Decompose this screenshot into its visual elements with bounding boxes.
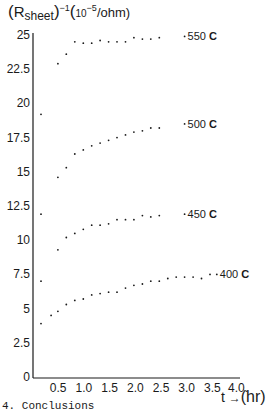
- x-tick-label: 3.5: [204, 381, 221, 395]
- data-point: [201, 278, 203, 280]
- data-point: [184, 123, 186, 125]
- data-point: [116, 291, 118, 293]
- data-point: [158, 37, 160, 39]
- data-point: [91, 224, 93, 226]
- y-tick-label: 17.5: [7, 131, 31, 145]
- data-point: [142, 283, 144, 285]
- data-point: [142, 215, 144, 217]
- data-point: [99, 293, 101, 295]
- data-point: [65, 53, 67, 55]
- data-point: [192, 276, 194, 278]
- x-tick-label: 1.0: [76, 381, 93, 395]
- y-tick-label: 0: [23, 370, 30, 384]
- data-point: [65, 167, 67, 169]
- data-point: [184, 213, 186, 215]
- data-point: [91, 294, 93, 296]
- y-tick-label: 5: [23, 302, 30, 316]
- x-axis-t: t: [221, 389, 225, 405]
- x-tick-label: 2.5: [153, 381, 170, 395]
- data-point: [175, 276, 177, 278]
- x-tick-label: 1.5: [101, 381, 118, 395]
- data-point: [82, 298, 84, 300]
- data-point: [82, 228, 84, 230]
- data-point: [40, 113, 42, 115]
- series-label: 500 C: [188, 118, 217, 130]
- series-labels: 400 C450 C500 C550 C: [188, 30, 250, 280]
- scatter-plot: 02.557.51012.51517.52022.525 0.51.01.52.…: [0, 0, 269, 416]
- data-point: [133, 219, 135, 221]
- x-tick-label: 3.0: [178, 381, 195, 395]
- x-tick-label: 2.0: [127, 381, 144, 395]
- data-point: [184, 276, 186, 278]
- data-point: [57, 176, 59, 178]
- data-point: [65, 304, 67, 306]
- data-point: [116, 219, 118, 221]
- data-point: [125, 134, 127, 136]
- data-point: [125, 287, 127, 289]
- data-point: [91, 145, 93, 147]
- y-tick-label: 15: [17, 165, 31, 179]
- data-point: [57, 310, 59, 312]
- data-point: [82, 149, 84, 151]
- data-point: [99, 224, 101, 226]
- data-points: [40, 36, 218, 325]
- data-point: [216, 274, 218, 276]
- series-label: 550 C: [188, 30, 217, 42]
- data-point: [108, 291, 110, 293]
- data-point: [125, 219, 127, 221]
- y-tick-label: 25: [17, 28, 31, 42]
- data-point: [74, 41, 76, 43]
- data-point: [108, 41, 110, 43]
- x-axis-title: t →(hr): [221, 388, 266, 406]
- y-tick-label: 2.5: [13, 336, 30, 350]
- x-tick-label: 0.5: [50, 381, 67, 395]
- data-point: [74, 300, 76, 302]
- data-point: [99, 142, 101, 144]
- data-point: [209, 274, 211, 276]
- data-point: [108, 223, 110, 225]
- series-label: 400 C: [220, 268, 249, 280]
- data-point: [133, 284, 135, 286]
- data-point: [116, 137, 118, 139]
- x-tick-labels: 0.51.01.52.02.53.03.54.0.: [50, 381, 248, 395]
- data-point: [150, 127, 152, 129]
- y-tick-labels: 02.557.51012.51517.52022.525: [7, 28, 31, 384]
- data-point: [150, 216, 152, 218]
- data-point: [184, 36, 186, 38]
- data-point: [133, 37, 135, 39]
- data-point: [158, 127, 160, 129]
- data-point: [74, 233, 76, 235]
- y-tick-label: 7.5: [13, 267, 30, 281]
- data-point: [142, 38, 144, 40]
- data-point: [57, 63, 59, 65]
- data-point: [57, 249, 59, 251]
- y-tick-label: 22.5: [7, 62, 31, 76]
- data-point: [142, 130, 144, 132]
- data-point: [40, 280, 42, 282]
- data-point: [65, 237, 67, 239]
- data-point: [99, 40, 101, 42]
- data-point: [158, 280, 160, 282]
- data-point: [133, 131, 135, 133]
- data-point: [74, 153, 76, 155]
- series-label: 450 C: [188, 208, 217, 220]
- data-point: [125, 41, 127, 43]
- data-point: [50, 315, 52, 317]
- y-tick-label: 12.5: [7, 199, 31, 213]
- data-point: [167, 278, 169, 280]
- data-point: [158, 215, 160, 217]
- y-tick-label: 20: [17, 96, 31, 110]
- y-tick-label: 10: [17, 233, 31, 247]
- x-axis-unit: (hr): [241, 388, 266, 405]
- section-heading: 4. Conclusions: [2, 400, 94, 412]
- data-point: [82, 42, 84, 44]
- data-point: [40, 213, 42, 215]
- data-point: [108, 139, 110, 141]
- data-point: [150, 280, 152, 282]
- data-point: [116, 41, 118, 43]
- arrow-right-icon: →: [229, 391, 241, 405]
- data-point: [150, 38, 152, 40]
- data-point: [91, 42, 93, 44]
- data-point: [40, 323, 42, 325]
